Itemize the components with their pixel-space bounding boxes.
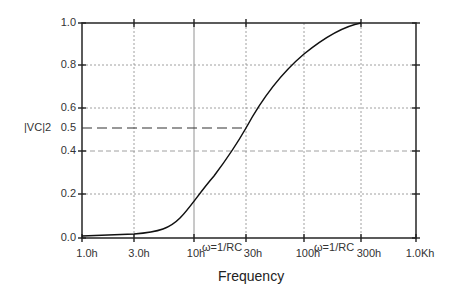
y-tick-label-0.8: 0.8 — [46, 58, 76, 70]
y-tick-label-0.6: 0.6 — [46, 101, 76, 113]
x-tick-label-300h: 300h — [349, 247, 389, 259]
response-curve — [82, 23, 361, 236]
tick-marks — [78, 19, 420, 242]
x-tick-label-1.0Kh: 1.0Kh — [400, 247, 440, 259]
x-gridlines — [134, 23, 361, 238]
x-tick-label-3.0h: 3.0h — [119, 247, 159, 259]
x-tick-label-1.0h: 1.0h — [67, 247, 107, 259]
cutoff-annotation-1: ω=1/RC — [202, 241, 242, 253]
plot-frame — [82, 23, 416, 238]
x-axis-title: Frequency — [218, 268, 284, 284]
y-gridlines — [82, 65, 416, 194]
cutoff-annotation-2: ω=1/RC — [314, 241, 354, 253]
y-tick-label-0.2: 0.2 — [46, 187, 76, 199]
y-tick-label-0.0: 0.0 — [46, 231, 76, 243]
y-tick-label-0.4: 0.4 — [46, 144, 76, 156]
y-axis-title: |VC|2 — [24, 121, 51, 133]
y-tick-label-1.0: 1.0 — [46, 16, 76, 28]
